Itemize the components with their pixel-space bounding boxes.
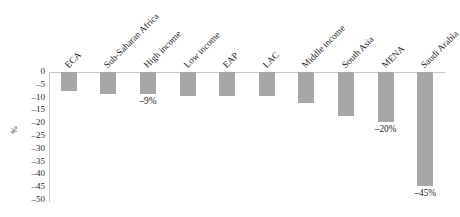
y-axis-tick-label: –20	[15, 118, 45, 127]
bar	[298, 72, 314, 103]
x-axis-category-label: LAC	[261, 50, 281, 70]
y-axis-tick-label: –10	[15, 93, 45, 102]
bar	[259, 72, 275, 96]
bar	[140, 72, 156, 94]
x-axis-category-label: Low income	[182, 30, 222, 70]
y-axis-tick-label: –25	[15, 131, 45, 140]
bar	[219, 72, 235, 96]
x-axis-category-label: South Asia	[340, 34, 376, 70]
y-axis-tick-label: –40	[15, 169, 45, 178]
x-axis-category-label: High income	[142, 29, 183, 70]
y-axis-tick-label: –50	[15, 195, 45, 204]
y-axis-tick-label: –45	[15, 182, 45, 191]
y-axis-ticks: 0–5–10–15–20–25–30–35–40–45–50	[12, 0, 45, 217]
y-axis-tick-label: –35	[15, 157, 45, 166]
bar-value-label: –9%	[128, 96, 168, 106]
bar	[378, 72, 394, 122]
bar	[180, 72, 196, 96]
y-axis-tick-label: 0	[15, 67, 45, 76]
bar	[417, 72, 433, 186]
bar-value-label: –20%	[366, 124, 406, 134]
bar	[100, 72, 116, 94]
bar-value-label: –45%	[405, 188, 445, 198]
bar	[61, 72, 77, 91]
y-axis-tick-label: –30	[15, 144, 45, 153]
x-axis-category-label: EAP	[221, 50, 241, 70]
bar	[338, 72, 354, 116]
y-axis-tick-label: –15	[15, 105, 45, 114]
x-axis-category-label: ECA	[63, 50, 83, 70]
x-axis-category-label: MENA	[380, 44, 406, 70]
x-axis-category-label: Saudi Arabia	[419, 29, 460, 70]
y-axis-tick-label: –5	[15, 80, 45, 89]
